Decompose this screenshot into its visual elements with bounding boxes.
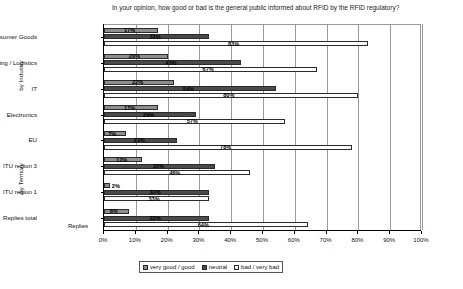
bar-row: 33% bbox=[104, 216, 422, 221]
bar-value-label: 7% bbox=[108, 130, 116, 138]
bar-value-label: 17% bbox=[124, 104, 135, 112]
x-axis-tick bbox=[357, 231, 358, 234]
bar-value-label: 46% bbox=[169, 169, 180, 177]
x-axis-tick-label: 0% bbox=[99, 236, 108, 244]
bar-value-label: 33% bbox=[149, 33, 160, 41]
bar-value-label: 83% bbox=[228, 40, 239, 48]
chart-container: In your opinion, how good or bad is the … bbox=[0, 0, 463, 289]
x-axis-tick-label: 70% bbox=[320, 236, 332, 244]
bar-row: 67% bbox=[104, 67, 422, 72]
category-label: EU bbox=[28, 136, 37, 144]
category-label: IT bbox=[32, 85, 38, 93]
bar-value-label: 29% bbox=[143, 111, 154, 119]
bar-value-label: 33% bbox=[148, 195, 159, 203]
bar-value-label: 20% bbox=[129, 52, 140, 60]
x-axis-tick-label: 90% bbox=[383, 236, 395, 244]
bar-row: 33% bbox=[104, 34, 422, 39]
bar-row: 35% bbox=[104, 164, 422, 169]
bar-row: 57% bbox=[104, 119, 422, 124]
x-axis-tick bbox=[103, 231, 104, 234]
chart-title: In your opinion, how good or bad is the … bbox=[112, 3, 452, 12]
bar-value-label: 57% bbox=[187, 117, 198, 125]
category-label: Replies total bbox=[3, 214, 37, 222]
bar-value-label: 80% bbox=[223, 91, 234, 99]
bar-row: 46% bbox=[104, 170, 422, 175]
axis-group-title-industry: by Industry bbox=[17, 55, 24, 95]
x-axis-tick bbox=[230, 231, 231, 234]
bar-value-label: 43% bbox=[165, 59, 176, 67]
x-axis-tick bbox=[135, 231, 136, 234]
bar-value-label: 64% bbox=[198, 221, 209, 229]
legend-label: neutral bbox=[209, 263, 227, 271]
legend-swatch-icon bbox=[143, 265, 148, 270]
bar-value-label: 33% bbox=[149, 214, 160, 222]
bar-value-label: 12% bbox=[116, 156, 127, 164]
x-axis-tick-label: 10% bbox=[129, 236, 141, 244]
bar-row: 23% bbox=[104, 138, 422, 143]
bar-value-label: 23% bbox=[134, 136, 145, 144]
legend-swatch-icon bbox=[202, 265, 207, 270]
bar[interactable] bbox=[104, 183, 110, 188]
category-label: Electronics bbox=[7, 111, 37, 119]
legend-item-very-good-good: very good / good bbox=[143, 263, 195, 271]
x-axis-tick bbox=[167, 231, 168, 234]
legend-item-neutral: neutral bbox=[202, 263, 227, 271]
chart-legend: very good / good neutral bad / very bad bbox=[139, 261, 283, 273]
legend-label: very good / good bbox=[150, 263, 195, 271]
x-axis-tick bbox=[389, 231, 390, 234]
axis-group-title-territory: by Territory bbox=[17, 159, 24, 199]
x-axis-tick-label: 80% bbox=[351, 236, 363, 244]
bar-row: 64% bbox=[104, 222, 422, 227]
bar-row: 29% bbox=[104, 112, 422, 117]
x-axis-tick-label: 30% bbox=[192, 236, 204, 244]
bar-row: 54% bbox=[104, 86, 422, 91]
bar-row: 22% bbox=[104, 80, 422, 85]
bar-value-label: 8% bbox=[110, 207, 118, 215]
gridline bbox=[422, 24, 423, 230]
x-axis-tick bbox=[421, 231, 422, 234]
bar-value-label: 22% bbox=[132, 78, 143, 86]
x-axis-tick-label: 50% bbox=[256, 236, 268, 244]
x-axis-tick bbox=[326, 231, 327, 234]
bar-row: 43% bbox=[104, 60, 422, 65]
x-axis-tick bbox=[262, 231, 263, 234]
legend-swatch-icon bbox=[234, 265, 239, 270]
bar-value-label: 78% bbox=[220, 143, 231, 151]
x-axis-title: Replies bbox=[68, 223, 88, 229]
bar-row: 7% bbox=[104, 131, 422, 136]
bar-row: 33% bbox=[104, 196, 422, 201]
x-axis-tick-label: 40% bbox=[224, 236, 236, 244]
bar-row: 83% bbox=[104, 41, 422, 46]
bar-row: 78% bbox=[104, 145, 422, 150]
x-axis-tick bbox=[198, 231, 199, 234]
x-axis-tick-label: 20% bbox=[161, 236, 173, 244]
x-axis-tick bbox=[294, 231, 295, 234]
bar-value-label: 35% bbox=[153, 162, 164, 170]
bar-value-label: 54% bbox=[183, 85, 194, 93]
bar-row: 80% bbox=[104, 93, 422, 98]
legend-item-bad-very-bad: bad / very bad bbox=[234, 263, 279, 271]
category-label: Retail / Consumer Goods bbox=[0, 33, 37, 41]
bar-value-label: 2% bbox=[112, 182, 120, 190]
bar-value-label: 67% bbox=[203, 65, 214, 73]
plot-area: 17%33%83%20%43%67%22%54%80%17%29%57%7%23… bbox=[103, 24, 421, 231]
legend-label: bad / very bad bbox=[241, 263, 279, 271]
x-axis-tick-label: 100% bbox=[413, 236, 428, 244]
bar-value-label: 17% bbox=[124, 26, 135, 34]
bar-row: 20% bbox=[104, 54, 422, 59]
x-axis-tick-label: 60% bbox=[288, 236, 300, 244]
